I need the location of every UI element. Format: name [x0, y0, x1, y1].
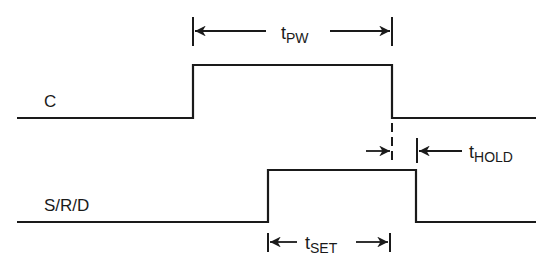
signal-label-c: C [44, 92, 56, 111]
tpw-label: tPW [281, 23, 309, 46]
c-waveform [17, 65, 536, 118]
thold-label: tHOLD [469, 142, 513, 165]
hold-time-annotation: tHOLD [366, 123, 513, 165]
srd-waveform [17, 170, 536, 222]
tset-label: tSET [305, 233, 338, 256]
timing-diagram: C S/R/D tPW tHOLD tSET [0, 0, 549, 271]
setup-time-annotation: tSET [268, 233, 390, 256]
pulse-width-annotation: tPW [193, 17, 392, 46]
signal-label-srd: S/R/D [44, 196, 89, 215]
